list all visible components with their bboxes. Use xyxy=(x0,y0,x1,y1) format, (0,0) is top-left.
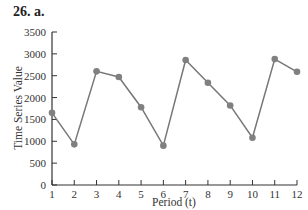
data-point xyxy=(249,134,256,141)
x-tick-label: 1 xyxy=(49,188,55,200)
y-tick-label: 500 xyxy=(30,157,47,169)
data-point xyxy=(294,68,301,75)
data-point xyxy=(49,110,56,117)
x-tick-label: 10 xyxy=(247,188,259,200)
x-tick-label: 12 xyxy=(292,188,303,200)
data-point xyxy=(182,57,189,64)
data-series xyxy=(49,56,301,149)
x-tick-label: 5 xyxy=(138,188,144,200)
data-point xyxy=(271,56,278,63)
data-point xyxy=(205,79,212,86)
y-tick-label: 1000 xyxy=(24,135,47,147)
data-point xyxy=(116,74,123,81)
data-point xyxy=(93,68,100,75)
y-tick-label: 1500 xyxy=(24,113,47,125)
y-tick-label: 2500 xyxy=(24,70,47,82)
data-point xyxy=(227,102,234,109)
x-tick-label: 2 xyxy=(72,188,78,200)
x-axis-title: Period (t) xyxy=(152,196,196,209)
y-tick-label: 2000 xyxy=(24,92,47,104)
x-tick-label: 9 xyxy=(227,188,233,200)
y-tick-label: 0 xyxy=(41,179,47,191)
line-chart: 0500100015002000250030003500123456789101… xyxy=(0,0,308,210)
y-tick-label: 3500 xyxy=(24,26,47,38)
data-point xyxy=(160,142,167,149)
data-point xyxy=(138,104,145,111)
y-tick-label: 3000 xyxy=(24,48,47,60)
axes: 0500100015002000250030003500123456789101… xyxy=(24,26,303,200)
y-axis-title: Time Series Value xyxy=(12,66,24,150)
x-tick-label: 3 xyxy=(94,188,100,200)
data-point xyxy=(71,141,78,148)
x-tick-label: 4 xyxy=(116,188,122,200)
x-tick-label: 11 xyxy=(269,188,280,200)
series-line xyxy=(52,59,297,146)
x-tick-label: 8 xyxy=(205,188,211,200)
